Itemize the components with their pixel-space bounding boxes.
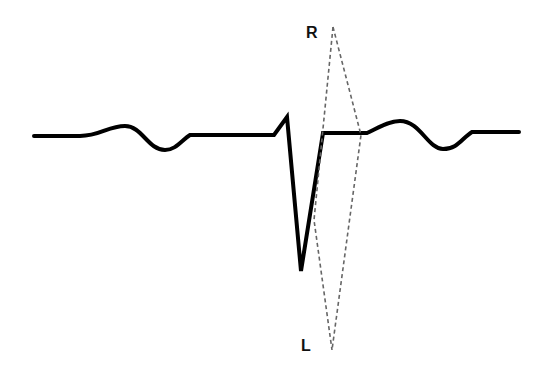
label-l: L (301, 337, 311, 355)
vector-loop-right (332, 27, 361, 350)
ecg-trace (34, 117, 519, 271)
label-r: R (306, 24, 318, 42)
ecg-diagram (0, 0, 541, 372)
vector-loop-left (314, 27, 333, 350)
